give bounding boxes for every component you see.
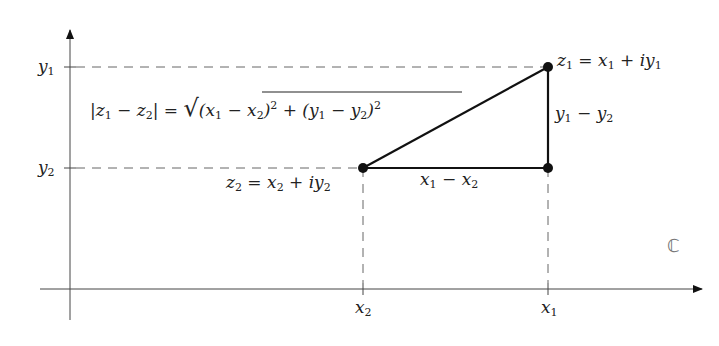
y1-tick-label: y1 — [38, 58, 55, 77]
point-z1 — [543, 62, 553, 72]
vertical-side-label: y1 − y2 — [555, 105, 613, 124]
x1-tick-label: x1 — [541, 299, 558, 318]
x2-tick-label: x2 — [355, 299, 372, 318]
y2-tick-label: y2 — [38, 159, 55, 178]
complex-plane-symbol: ℂ — [667, 235, 680, 256]
point-z2 — [358, 163, 368, 173]
z1-label: z1 = x1 + iy1 — [557, 52, 662, 71]
distance-formula: |z1 − z2| = √(x1 − x2)2 + (y1 − y2)2 — [90, 96, 381, 121]
sqrt-symbol: √ — [183, 94, 198, 122]
hypotenuse — [363, 67, 548, 168]
horizontal-side-label: x1 − x2 — [420, 171, 478, 190]
point-corner — [543, 163, 553, 173]
z2-label: z2 = x2 + iy2 — [226, 174, 331, 193]
